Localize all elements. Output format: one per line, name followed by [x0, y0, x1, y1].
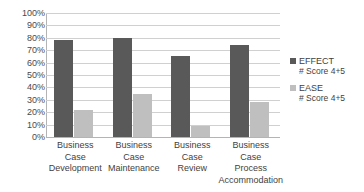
category-label: Business Case Maintenance [101, 140, 167, 175]
category-label-line: Business [42, 140, 108, 152]
gridline-baseline [46, 137, 280, 138]
bar-ease [250, 102, 269, 137]
bar-ease [133, 94, 152, 137]
legend-entry-ease: EASE # Score 4+5 [290, 83, 364, 103]
legend-sublabel: # Score 4+5 [299, 66, 364, 76]
legend-entry-effect: EFFECT # Score 4+5 [290, 56, 364, 76]
category-label-line: Business [218, 140, 284, 152]
y-tick-label: 90% [4, 21, 50, 30]
legend-swatch-icon [290, 58, 296, 64]
bar-group [163, 13, 222, 137]
bar-effect [113, 38, 132, 137]
category-label-line: Case [101, 152, 167, 164]
chart-legend: EFFECT # Score 4+5 EASE # Score 4+5 [290, 56, 364, 110]
bar-effect [54, 40, 73, 137]
bar-effect [171, 56, 190, 137]
x-axis-category-labels: Business Case Development Business Case … [46, 140, 280, 190]
bar-ease [191, 126, 210, 137]
category-label-line: Maintenance [101, 163, 167, 175]
legend-label: EFFECT [299, 56, 334, 66]
category-label-line: Process [218, 163, 284, 175]
category-label-line: Development [42, 163, 108, 175]
category-label-line: Accommodation [218, 175, 284, 187]
category-label-line: Case [218, 152, 284, 164]
category-label-line: Case [159, 152, 225, 164]
y-tick-label: 60% [4, 59, 50, 68]
legend-swatch-icon [290, 85, 296, 91]
bar-chart: 100% 90% 80% 70% 60% 50% 40% 30% 20% 10%… [0, 0, 364, 192]
category-label-line: Case [42, 152, 108, 164]
y-tick-label: 80% [4, 34, 50, 43]
y-tick-label: 10% [4, 121, 50, 130]
legend-label: EASE [299, 83, 323, 93]
bars-layer [46, 13, 280, 137]
y-tick-label: 20% [4, 108, 50, 117]
y-tick-label: 40% [4, 83, 50, 92]
category-label: Business Case Development [42, 140, 108, 175]
bar-group [105, 13, 164, 137]
bar-group [222, 13, 281, 137]
category-label: Business Case Review [159, 140, 225, 175]
y-tick-label: 30% [4, 96, 50, 105]
category-label-line: Business [159, 140, 225, 152]
legend-sublabel: # Score 4+5 [299, 93, 364, 103]
y-tick-label: 70% [4, 46, 50, 55]
y-tick-label: 50% [4, 71, 50, 80]
plot-area [46, 13, 280, 137]
bar-effect [230, 45, 249, 137]
category-label-line: Business [101, 140, 167, 152]
category-label-line: Review [159, 163, 225, 175]
category-label: Business Case Process Accommodation [218, 140, 284, 186]
y-tick-label: 100% [4, 9, 50, 18]
bar-group [46, 13, 105, 137]
bar-ease [74, 110, 93, 137]
